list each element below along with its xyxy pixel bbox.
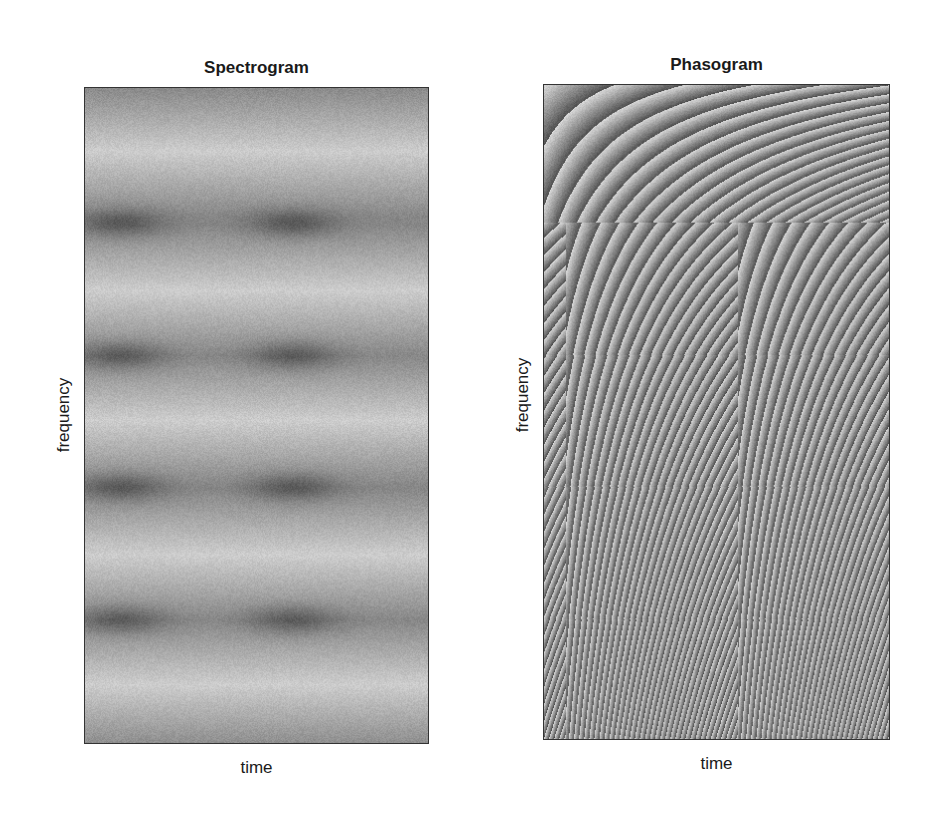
phasogram-x-axis-label: time (543, 754, 890, 774)
phasogram-plot (543, 84, 890, 740)
spectrogram-y-axis-label: frequency (54, 370, 74, 460)
spectrogram-plot (84, 87, 429, 744)
phasogram-y-axis-label: frequency (513, 350, 533, 440)
phasogram-title: Phasogram (543, 55, 890, 75)
spectrogram-title: Spectrogram (84, 58, 429, 78)
spectrogram-x-axis-label: time (84, 758, 429, 778)
